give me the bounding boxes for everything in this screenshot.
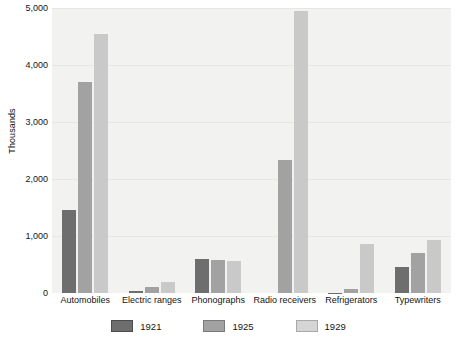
legend-item[interactable]: 1925	[203, 320, 253, 332]
bar[interactable]	[211, 260, 225, 293]
bar[interactable]	[145, 287, 159, 293]
y-tick-label: 4,000	[0, 60, 48, 70]
bar[interactable]	[161, 282, 175, 293]
bar[interactable]	[129, 291, 143, 293]
y-tick-label: 3,000	[0, 117, 48, 127]
bar[interactable]	[427, 240, 441, 293]
plot-area	[52, 8, 451, 293]
y-axis-tick-labels: 01,0002,0003,0004,0005,000	[0, 0, 48, 300]
legend-label: 1921	[140, 321, 161, 332]
bar[interactable]	[360, 244, 374, 293]
legend-swatch	[203, 320, 225, 332]
bar[interactable]	[94, 34, 108, 293]
y-tick-label: 1,000	[0, 231, 48, 241]
chart-legend: 192119251929	[0, 320, 457, 332]
legend-item[interactable]: 1929	[296, 320, 346, 332]
y-tick-label: 5,000	[0, 3, 48, 13]
bar[interactable]	[195, 259, 209, 293]
bar-groups	[52, 8, 451, 293]
bar[interactable]	[227, 261, 241, 293]
bar[interactable]	[294, 11, 308, 293]
x-tick-label: Electric ranges	[119, 295, 186, 305]
bar-group	[252, 8, 319, 293]
bar-group	[52, 8, 119, 293]
bar[interactable]	[411, 253, 425, 293]
bar[interactable]	[78, 82, 92, 293]
y-tick-label: 2,000	[0, 174, 48, 184]
bar-group	[119, 8, 186, 293]
legend-item[interactable]: 1921	[111, 320, 161, 332]
y-tick-label: 0	[0, 288, 48, 298]
bar[interactable]	[344, 289, 358, 293]
x-tick-label: Automobiles	[52, 295, 119, 305]
bar[interactable]	[278, 160, 292, 293]
legend-label: 1925	[232, 321, 253, 332]
x-tick-label: Refrigerators	[318, 295, 385, 305]
x-tick-label: Typewriters	[385, 295, 452, 305]
bar[interactable]	[395, 267, 409, 293]
x-tick-label: Radio receivers	[252, 295, 319, 305]
bar-group	[385, 8, 452, 293]
legend-label: 1929	[325, 321, 346, 332]
x-axis-tick-labels: AutomobilesElectric rangesPhonographsRad…	[52, 295, 451, 305]
bar[interactable]	[62, 210, 76, 293]
x-tick-label: Phonographs	[185, 295, 252, 305]
legend-swatch	[111, 320, 133, 332]
bar-group	[318, 8, 385, 293]
legend-swatch	[296, 320, 318, 332]
bar-chart: Thousands 01,0002,0003,0004,0005,000 Aut…	[0, 0, 457, 344]
bar-group	[185, 8, 252, 293]
